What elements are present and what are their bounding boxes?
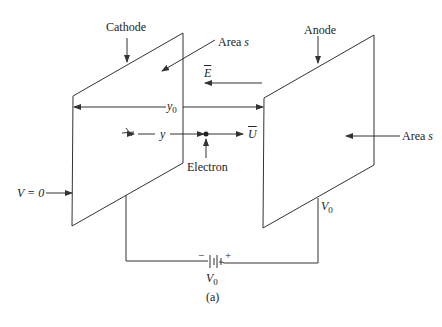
electron-dot: [204, 132, 209, 137]
cathode-label: Cathode: [106, 21, 146, 33]
anode-potential-label: V0: [321, 200, 333, 215]
cathode-area-label: Area s: [218, 36, 249, 48]
cathode-potential-label: V = 0: [17, 187, 44, 199]
anode-label: Anode: [304, 24, 336, 36]
battery-voltage-label: V0: [206, 272, 218, 287]
velocity-label: U: [248, 128, 257, 140]
anode-area-label: Area s: [402, 130, 433, 142]
battery-minus: −: [198, 250, 204, 261]
position-label: y: [160, 128, 165, 140]
electron-label: Electron: [187, 161, 228, 173]
separation-label: y0: [167, 100, 177, 115]
diode-diagram: Cathode Area s Anode Area s E y0 y U Ele…: [0, 0, 442, 327]
battery-plus: +: [225, 250, 231, 261]
figure-caption: (a): [206, 291, 219, 303]
field-label: E: [204, 67, 211, 79]
